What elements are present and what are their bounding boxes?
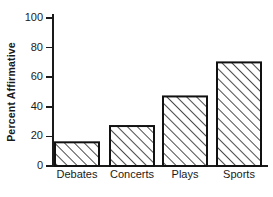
- x-label-sports: Sports: [223, 168, 255, 180]
- y-tick-label-20: 20: [31, 129, 43, 141]
- bar-plays: [163, 96, 207, 166]
- y-tick-label-0: 0: [37, 159, 43, 171]
- y-tick-label-80: 80: [31, 41, 43, 53]
- bar-sports: [217, 62, 261, 166]
- chart-canvas: 0 20 40 60 80 100 Percent Affirmative De…: [0, 0, 273, 197]
- y-axis-title: Percent Affirmative: [5, 42, 17, 142]
- x-label-plays: Plays: [172, 168, 199, 180]
- y-tick-label-60: 60: [31, 70, 43, 82]
- y-tick-label-100: 100: [25, 11, 43, 23]
- bar-concerts: [110, 126, 154, 166]
- y-tick-label-40: 40: [31, 100, 43, 112]
- bar-debates: [55, 142, 99, 166]
- bar-chart: 0 20 40 60 80 100 Percent Affirmative De…: [0, 0, 273, 197]
- x-label-concerts: Concerts: [110, 168, 155, 180]
- x-label-debates: Debates: [57, 168, 98, 180]
